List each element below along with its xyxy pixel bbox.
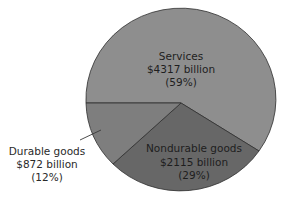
pie-chart: Services $4317 billion (59%) Nondurable … xyxy=(0,0,284,204)
durable-label-percent: (12%) xyxy=(31,171,63,183)
nondurable-label-name: Nondurable goods xyxy=(146,142,242,154)
services-label-name: Services xyxy=(159,50,203,62)
durable-label-name: Durable goods xyxy=(9,145,86,157)
services-label-value: $4317 billion xyxy=(147,63,215,75)
services-label-percent: (59%) xyxy=(165,76,197,88)
nondurable-label-percent: (29%) xyxy=(178,169,210,181)
durable-label-value: $872 billion xyxy=(16,158,77,170)
nondurable-label-value: $2115 billion xyxy=(160,156,228,168)
